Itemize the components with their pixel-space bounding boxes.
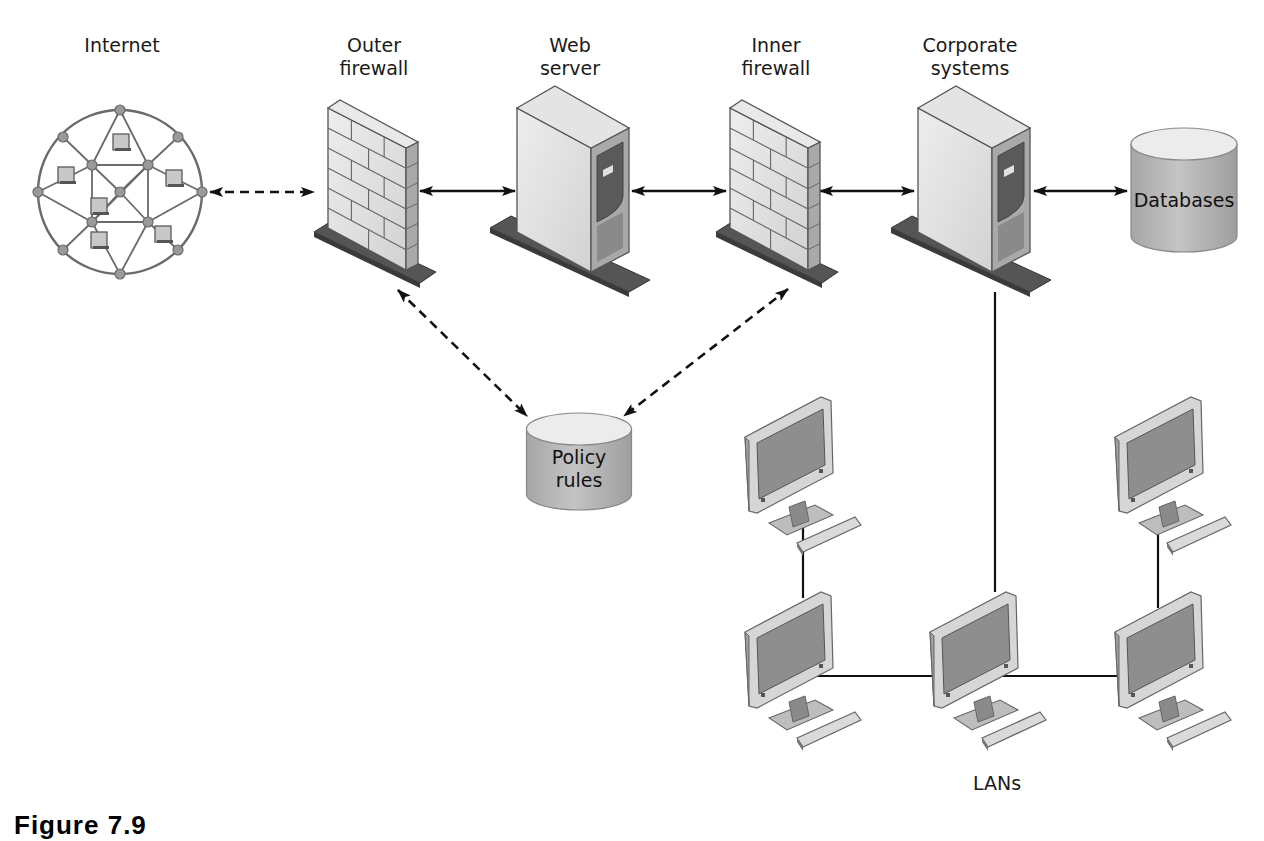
databases-label: Databases bbox=[1134, 188, 1235, 211]
figure-caption: Figure 7.9 bbox=[14, 810, 147, 841]
edge-outer-firewall-to-policy-rules bbox=[398, 290, 527, 416]
edge-inner-firewall-to-policy-rules bbox=[624, 289, 788, 416]
internet-globe-icon bbox=[33, 105, 207, 279]
outer-firewall-label: Outer firewall bbox=[340, 34, 409, 80]
lans-label: LANs bbox=[973, 772, 1021, 795]
corporate-systems-server-icon bbox=[891, 86, 1051, 297]
computer-pc-4-icon bbox=[930, 592, 1046, 751]
computer-pc-2-icon bbox=[1115, 397, 1231, 556]
outer-firewall-firewall-icon bbox=[314, 100, 436, 288]
internet-label: Internet bbox=[84, 34, 159, 57]
computer-pc-5-icon bbox=[1115, 592, 1231, 751]
web-server-label: Web server bbox=[540, 34, 600, 80]
corporate-systems-label: Corporate systems bbox=[923, 34, 1018, 80]
inner-firewall-label: Inner firewall bbox=[742, 34, 811, 80]
policy-rules-label: Policy rules bbox=[552, 446, 607, 492]
nodes bbox=[33, 86, 1237, 751]
computer-pc-3-icon bbox=[745, 592, 861, 751]
inner-firewall-firewall-icon bbox=[716, 100, 838, 288]
